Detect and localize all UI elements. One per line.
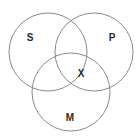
set-p-circle (55, 13, 133, 91)
intersection-x-marker: X (78, 68, 85, 79)
set-p-label: P (109, 32, 116, 43)
set-s-label: S (27, 32, 34, 43)
set-m-label: M (66, 112, 74, 123)
set-s-circle (9, 13, 87, 91)
venn-diagram: S P M X (0, 0, 139, 137)
